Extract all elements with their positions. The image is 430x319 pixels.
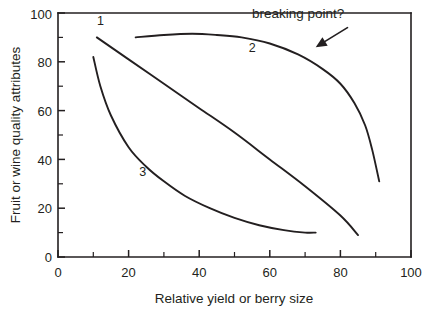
x-tick-label-0: 0 [54, 265, 61, 280]
y-tick-label-40: 40 [38, 153, 52, 168]
x-axis-ticks [58, 250, 411, 257]
y-tick-label-20: 20 [38, 201, 52, 216]
curve-label-2: 2 [249, 41, 256, 55]
y-tick-label-80: 80 [38, 55, 52, 70]
chart-canvas: 0 20 40 60 80 100 0 20 40 60 80 100 Rela… [0, 0, 430, 319]
plot-frame [58, 13, 411, 257]
y-tick-label-100: 100 [30, 7, 52, 22]
x-axis-title: Relative yield or berry size [155, 291, 313, 306]
annotation-text: breaking point? [252, 6, 344, 21]
x-tick-label-40: 40 [192, 265, 206, 280]
curve-label-3: 3 [139, 165, 146, 179]
x-tick-label-100: 100 [400, 265, 422, 280]
curve-series-3 [93, 57, 315, 233]
curve-series-2 [136, 34, 380, 182]
curve-label-1: 1 [97, 14, 104, 28]
x-tick-labels: 0 20 40 60 80 100 [54, 265, 421, 280]
y-axis-ticks [58, 13, 65, 257]
y-axis-title: Fruit or wine quality attributes [8, 47, 23, 224]
y-tick-labels: 0 20 40 60 80 100 [30, 7, 52, 266]
y-tick-label-60: 60 [38, 104, 52, 119]
breaking-point-annotation: breaking point? [252, 6, 348, 47]
x-tick-label-80: 80 [333, 265, 347, 280]
x-tick-label-60: 60 [263, 265, 277, 280]
chart-figure: 0 20 40 60 80 100 0 20 40 60 80 100 Rela… [0, 0, 430, 319]
x-tick-label-20: 20 [121, 265, 135, 280]
y-tick-label-0: 0 [45, 250, 52, 265]
curve-labels: 1 2 3 [97, 14, 256, 179]
annotation-arrow-head [316, 37, 328, 47]
data-curves [93, 34, 379, 235]
annotation-arrow-line [325, 28, 347, 42]
